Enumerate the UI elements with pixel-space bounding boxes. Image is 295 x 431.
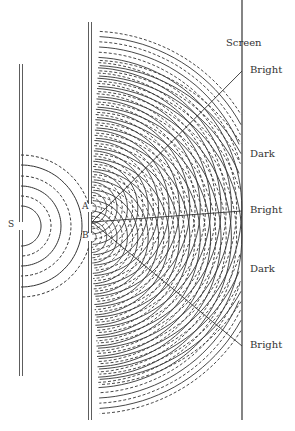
slit-b-label: B: [82, 230, 89, 240]
fringe-label: Dark: [250, 148, 275, 159]
fringe-label: Bright: [250, 339, 282, 350]
source-barrier: [20, 64, 23, 376]
screen-label: Screen: [226, 37, 262, 48]
fringe-label: Bright: [250, 64, 282, 75]
slit-a-label: A: [82, 201, 89, 211]
diagram-root: S A B Screen Bright Dark Bright Dark Bri…: [0, 0, 295, 431]
slit-wavefronts: [91, 31, 242, 413]
double-slit-barrier: [89, 22, 92, 420]
fringe-label: Dark: [250, 263, 275, 274]
fringe-label: Bright: [250, 204, 282, 215]
source-slit-label: S: [8, 219, 14, 229]
source-wavefronts: [21, 155, 89, 297]
